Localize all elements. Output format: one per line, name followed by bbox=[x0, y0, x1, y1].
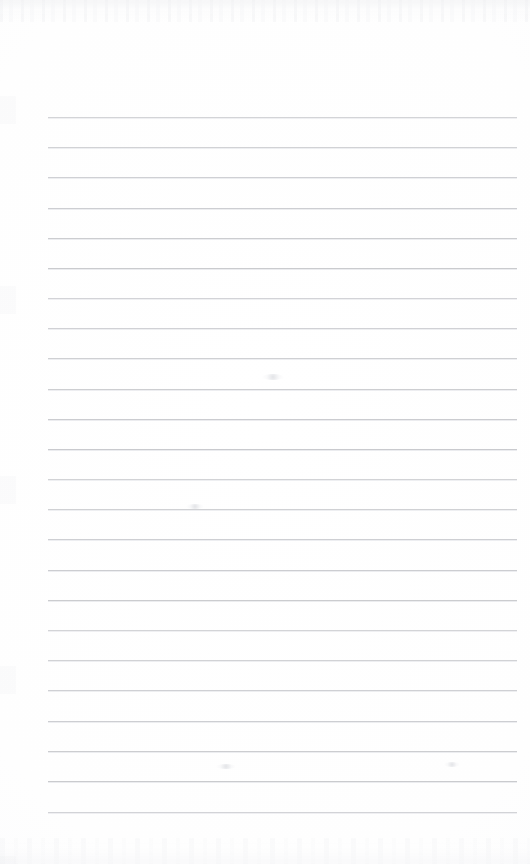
rule-line bbox=[48, 539, 517, 540]
rule-line bbox=[48, 268, 517, 269]
rule-line bbox=[48, 570, 517, 571]
rule-line bbox=[48, 358, 517, 359]
rule-line bbox=[48, 781, 517, 782]
rule-line bbox=[48, 630, 517, 631]
rule-line bbox=[48, 177, 517, 178]
rule-line bbox=[48, 812, 517, 813]
rule-line bbox=[48, 147, 517, 148]
scanned-page bbox=[0, 0, 530, 864]
rule-line bbox=[48, 660, 517, 661]
rule-line bbox=[48, 600, 517, 601]
rule-line bbox=[48, 298, 517, 299]
rule-line bbox=[48, 117, 517, 118]
rule-line bbox=[48, 238, 517, 239]
ruled-lines-layer bbox=[0, 0, 530, 864]
rule-line bbox=[48, 751, 517, 752]
rule-line bbox=[48, 690, 517, 691]
rule-line bbox=[48, 328, 517, 329]
rule-line bbox=[48, 208, 517, 209]
rule-line bbox=[48, 479, 517, 480]
rule-line bbox=[48, 449, 517, 450]
rule-line bbox=[48, 721, 517, 722]
rule-line bbox=[48, 419, 517, 420]
rule-line bbox=[48, 389, 517, 390]
rule-line bbox=[48, 509, 517, 510]
